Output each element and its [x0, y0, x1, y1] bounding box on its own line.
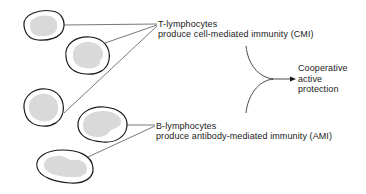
- b-lymphocyte-cell: [78, 107, 127, 142]
- arrowhead-icon: [290, 77, 296, 82]
- outcome-line: active: [298, 74, 348, 85]
- nucleus: [30, 15, 57, 36]
- b-curve: [246, 79, 273, 113]
- t-lymphocyte-cell: [24, 89, 63, 126]
- t-lymphocytes-title: T-lymphocytes: [158, 19, 314, 29]
- outcome-line: protection: [298, 84, 348, 95]
- t-lymphocytes-description: produce cell-mediated immunity (CMI): [158, 29, 314, 39]
- t-curve: [246, 46, 273, 79]
- b-lymphocytes-label: B-lymphocytes produce antibody-mediated …: [156, 121, 332, 141]
- t-connector-2: [105, 25, 157, 43]
- outcome-line: Cooperative: [298, 63, 348, 74]
- t-connector-1: [64, 24, 157, 25]
- t-lymphocyte-cell: [66, 37, 110, 74]
- b-lymphocytes-description: produce antibody-mediated immunity (AMI): [156, 131, 332, 141]
- converging-arrows: [246, 46, 291, 113]
- nucleus: [29, 94, 58, 121]
- nucleus: [73, 42, 103, 68]
- t-lymphocytes-label: T-lymphocytes produce cell-mediated immu…: [158, 19, 314, 39]
- b-lymphocyte-cell: [37, 150, 93, 183]
- b-lymphocytes-title: B-lymphocytes: [156, 121, 332, 131]
- outcome-label: Cooperative active protection: [298, 63, 348, 95]
- t-lymphocyte-cell: [24, 11, 64, 41]
